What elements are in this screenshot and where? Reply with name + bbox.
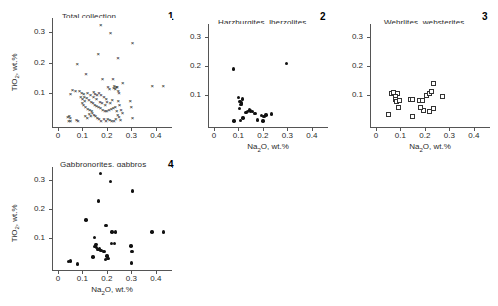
data-point	[107, 118, 112, 123]
data-point	[410, 97, 415, 102]
data-point	[89, 100, 94, 105]
data-point	[99, 93, 104, 98]
data-point	[67, 114, 72, 119]
data-point	[93, 92, 98, 97]
data-point	[105, 100, 110, 105]
data-point	[431, 106, 436, 111]
data-point	[393, 94, 398, 99]
data-point	[95, 246, 98, 249]
data-point	[115, 56, 120, 61]
data-point	[104, 224, 107, 227]
panel-1-plot-area: 0.10.20.300.10.20.30.4	[52, 18, 172, 128]
data-point	[394, 99, 399, 104]
data-point	[109, 107, 114, 112]
x-axis-tick-label: 0.4	[300, 132, 324, 140]
data-point	[119, 108, 124, 113]
x-axis-tick-label: 0.2	[95, 132, 119, 140]
panel-2-harzburgites-lherzolites: Harzburgites, lherzolites 2 0.10.20.300.…	[168, 0, 333, 160]
data-point	[94, 104, 99, 109]
data-point	[117, 91, 122, 96]
data-point	[106, 85, 111, 90]
data-point	[262, 115, 265, 118]
data-point	[98, 100, 103, 105]
data-point	[417, 98, 422, 103]
data-point	[161, 84, 166, 89]
panel-3-wehrlites-websterites: Wehrlites, websterites 3 0.10.20.300.10.…	[330, 0, 498, 160]
data-point	[98, 247, 101, 250]
data-point	[90, 111, 95, 116]
data-point	[421, 108, 426, 113]
y-axis-tick-label: 0.3	[19, 176, 45, 184]
data-point	[115, 113, 120, 118]
data-point	[112, 84, 117, 89]
data-point	[248, 108, 251, 111]
data-point	[111, 86, 116, 91]
data-point	[232, 119, 235, 122]
y-axis-tick-label: 0.3	[337, 33, 363, 41]
data-point	[96, 52, 101, 57]
data-point	[129, 105, 134, 110]
data-point	[99, 101, 104, 106]
data-point	[95, 93, 100, 98]
data-point	[81, 92, 86, 97]
data-point	[162, 230, 165, 233]
data-point	[87, 108, 92, 113]
data-point	[129, 244, 132, 247]
panel-2-plot-area: 0.10.20.300.10.20.30.4	[208, 24, 328, 128]
data-point	[82, 99, 87, 104]
data-point	[105, 117, 110, 122]
data-point	[102, 109, 107, 114]
data-point	[420, 98, 425, 103]
x-axis-tick-label: 0.4	[462, 132, 486, 140]
data-point	[84, 96, 89, 101]
x-axis-tick-label: 0.1	[70, 132, 94, 140]
y-axis-tick	[367, 66, 371, 67]
data-point	[120, 81, 125, 86]
data-point	[260, 114, 263, 117]
panel-2-number: 2	[320, 12, 326, 22]
data-point	[256, 118, 259, 121]
data-point	[102, 250, 105, 253]
panel-1-total-collection: Total collection 1 TiO2, wt.% 0.10.20.30…	[0, 0, 180, 150]
data-point	[90, 101, 95, 106]
data-point	[93, 114, 98, 119]
panel-4-gabbronorites-gabbros: Gabbronorites, gabbros 4 TiO2, wt.% 0.10…	[0, 155, 180, 306]
data-point	[264, 113, 267, 116]
data-point	[91, 95, 96, 100]
data-point	[118, 118, 123, 123]
data-point	[418, 105, 423, 110]
data-point	[75, 62, 80, 67]
data-point	[82, 95, 87, 100]
data-point	[80, 97, 85, 102]
data-point	[261, 119, 264, 122]
data-point	[395, 91, 400, 96]
data-point	[77, 89, 82, 94]
data-point	[427, 109, 432, 114]
data-point	[408, 97, 413, 102]
data-point	[393, 97, 398, 102]
y-axis-tick	[49, 238, 53, 239]
data-point	[237, 96, 240, 99]
panel-4-x-axis-title: Na2O, wt.%	[52, 285, 172, 298]
data-point	[67, 260, 70, 263]
data-point	[117, 115, 122, 120]
data-point	[104, 258, 107, 261]
data-point	[116, 99, 121, 104]
data-point	[100, 108, 105, 113]
data-point	[397, 98, 402, 103]
y-axis-tick-label: 0.3	[175, 33, 201, 41]
data-point	[251, 110, 254, 113]
data-point	[101, 117, 106, 122]
data-point	[91, 90, 96, 95]
data-point	[130, 116, 135, 121]
data-point	[253, 112, 256, 115]
y-axis-tick	[367, 95, 371, 96]
y-axis-tick	[49, 63, 53, 64]
y-axis-tick	[205, 95, 209, 96]
data-point	[93, 245, 96, 248]
data-point	[97, 199, 100, 202]
panel-3-plot-area: 0.10.20.300.10.20.30.4	[370, 24, 490, 128]
data-point	[128, 99, 133, 104]
data-point	[70, 88, 75, 93]
data-point	[109, 119, 114, 124]
